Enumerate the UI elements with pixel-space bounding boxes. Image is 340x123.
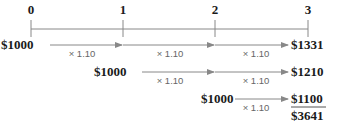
timeline-diagram [0, 0, 340, 123]
row2-start: $1000 [94, 64, 127, 80]
row3-mult-1: × 1.10 [243, 102, 270, 113]
row1-mult-3: × 1.10 [243, 48, 270, 59]
row3-start: $1000 [201, 91, 234, 107]
row1-end: $1331 [291, 37, 324, 53]
row2-mult-2: × 1.10 [243, 75, 270, 86]
period-label-3: 3 [305, 2, 312, 18]
period-label-2: 2 [212, 2, 219, 18]
row1-mult-1: × 1.10 [69, 48, 96, 59]
period-label-1: 1 [120, 2, 127, 18]
row1-start: $1000 [1, 37, 34, 53]
row2-end: $1210 [291, 64, 324, 80]
row2-mult-1: × 1.10 [157, 75, 184, 86]
period-label-0: 0 [28, 2, 35, 18]
total-value: $3641 [291, 108, 324, 123]
row1-mult-2: × 1.10 [157, 48, 184, 59]
row3-end: $1100 [291, 91, 323, 107]
